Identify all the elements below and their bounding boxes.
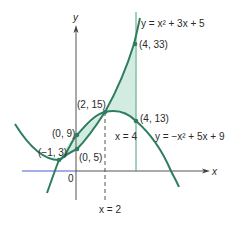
origin-label: 0: [68, 173, 74, 184]
point-0-9: [75, 133, 80, 138]
point-neg1-3: [57, 158, 62, 163]
point-label-0-5: (0, 5): [79, 152, 102, 163]
curve-lower-label: y = −x² + 5x + 9: [155, 131, 225, 142]
point-label-2-15: (2, 15): [77, 99, 106, 110]
vertical-line-label: x = 4: [115, 131, 137, 142]
curve-upper-label: y = x² + 3x + 5: [141, 18, 205, 29]
point-4-13: [134, 119, 139, 124]
point-label-4-33: (4, 33): [139, 39, 168, 50]
point-label-4-13: (4, 13): [140, 113, 169, 124]
point-2-15: [103, 110, 108, 115]
y-axis-label: y: [72, 12, 79, 23]
point-0-5: [75, 147, 80, 152]
x-axis-label: x: [211, 166, 218, 177]
point-label-neg1-3: (−1, 3): [38, 147, 67, 158]
point-4-33: [133, 42, 138, 47]
point-label-0-9: (0, 9): [52, 128, 75, 139]
area-between-curves-diagram: x y 0 y = x² + 3x + 5 y = −x² + 5x + 9 x…: [0, 0, 228, 226]
dashed-line-label: x = 2: [99, 204, 121, 215]
